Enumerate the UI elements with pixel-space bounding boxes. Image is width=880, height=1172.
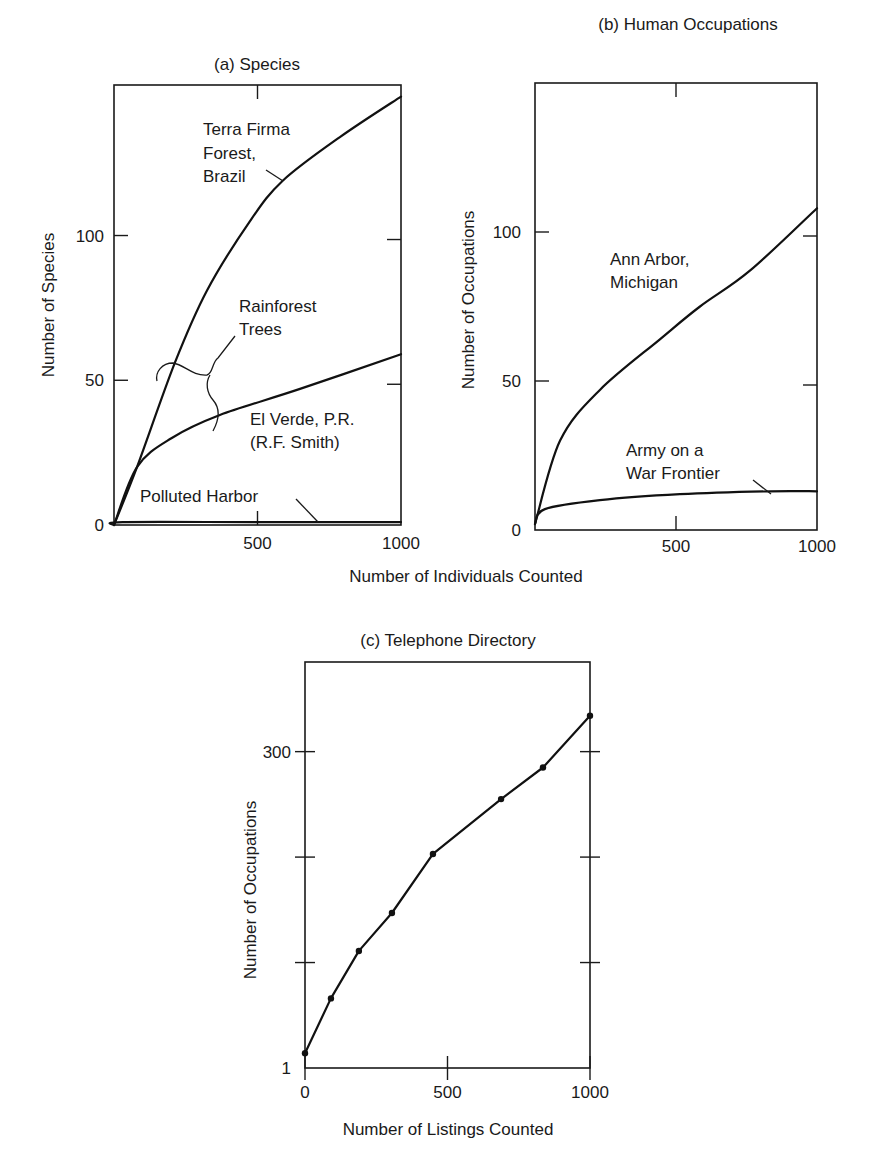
panel-c-title: (c) Telephone Directory — [360, 631, 536, 650]
x-tick-label: 1000 — [571, 1083, 609, 1102]
annotation-ann-arbor: Ann Arbor, Michigan — [610, 250, 689, 292]
terra-firma-leader-line — [266, 170, 283, 181]
x-tick-label: 0 — [300, 1083, 309, 1102]
figure: (a) Species 5001000050100 Number of Spec… — [0, 0, 880, 1172]
x-tick-label: 1000 — [798, 537, 836, 556]
annotation-terra-firma: Terra Firma Forest, Brazil — [203, 120, 290, 186]
y-tick-label: 100 — [493, 223, 521, 242]
annotation-polluted-harbor: Polluted Harbor — [140, 487, 318, 522]
x-tick-label: 500 — [243, 534, 271, 553]
data-point — [587, 713, 593, 719]
annot-rainforest-line1: Rainforest — [239, 297, 317, 316]
annot-army-line2: War Frontier — [626, 464, 720, 483]
panel-c-curves — [305, 716, 590, 1053]
annot-army-line1: Army on a — [626, 441, 704, 460]
panel-b-ticks — [535, 83, 817, 530]
y-tick-label: 0 — [95, 516, 104, 535]
panel-b-y-axis-label: Number of Occupations — [459, 211, 478, 390]
data-point — [540, 764, 546, 770]
annot-ann-arbor-line2: Michigan — [610, 273, 678, 292]
panel-c-frame — [305, 662, 590, 1068]
panel-c-x-axis-label: Number of Listings Counted — [343, 1120, 554, 1139]
annot-polluted-harbor: Polluted Harbor — [140, 487, 258, 506]
annot-ann-arbor-line1: Ann Arbor, — [610, 250, 689, 269]
x-tick-label: 1000 — [382, 534, 420, 553]
rainforest-bracket-upper — [157, 336, 235, 381]
panel-a-species: (a) Species 5001000050100 Number of Spec… — [39, 55, 420, 553]
y-tick-label: 300 — [263, 743, 291, 762]
annot-el-verde-line2: (R.F. Smith) — [250, 433, 340, 452]
panel-b-human-occupations: (b) Human Occupations 5001000050100 Numb… — [459, 15, 836, 556]
y-tick-label: 100 — [76, 227, 104, 246]
data-point — [328, 995, 334, 1001]
data-point — [389, 910, 395, 916]
annot-terra-firma-line1: Terra Firma — [203, 120, 290, 139]
panel-b-title: (b) Human Occupations — [598, 15, 778, 34]
panel-c-tick-labels: 050010001300 — [263, 743, 609, 1102]
annot-terra-firma-line2: Forest, — [203, 144, 256, 163]
annot-el-verde-line1: El Verde, P.R. — [250, 410, 355, 429]
x-tick-label: 500 — [433, 1083, 461, 1102]
y-tick-label: 50 — [502, 372, 521, 391]
x-tick-label: 500 — [662, 537, 690, 556]
panel-c-y-axis-label: Number of Occupations — [241, 801, 260, 980]
data-point — [430, 851, 436, 857]
panel-c-ticks — [295, 752, 600, 1080]
series-telephone-directory — [305, 716, 590, 1053]
annot-rainforest-line2: Trees — [239, 320, 282, 339]
annot-terra-firma-line3: Brazil — [203, 167, 246, 186]
panel-c-telephone-directory: (c) Telephone Directory 050010001300 Num… — [241, 631, 609, 1139]
shared-x-axis-label: Number of Individuals Counted — [349, 567, 582, 586]
y-tick-label: 50 — [85, 371, 104, 390]
panel-a-title: (a) Species — [214, 55, 300, 74]
annotation-el-verde: El Verde, P.R. (R.F. Smith) — [250, 410, 355, 452]
polluted-harbor-leader-line — [296, 499, 318, 522]
data-point — [302, 1050, 308, 1056]
data-point — [356, 948, 362, 954]
data-point — [498, 796, 504, 802]
rainforest-bracket-lower — [207, 375, 218, 431]
panel-c-points — [302, 713, 593, 1057]
panel-b-frame — [535, 83, 817, 530]
panel-a-y-axis-label: Number of Species — [39, 233, 58, 378]
y-tick-label: 0 — [512, 521, 521, 540]
y-tick-label: 1 — [282, 1059, 291, 1078]
annotation-army: Army on a War Frontier — [626, 441, 771, 494]
